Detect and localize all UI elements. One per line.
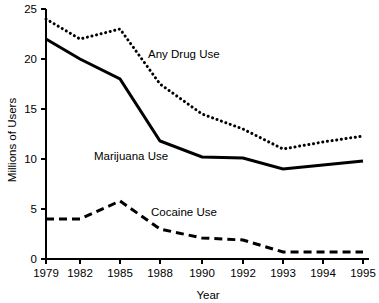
series-annotations: Any Drug Use Marijuana Use Cocaine Use xyxy=(94,48,220,218)
x-tick-label: 1995 xyxy=(350,267,376,279)
x-tick-label: 1979 xyxy=(33,267,59,279)
series-label-any-drug-use: Any Drug Use xyxy=(148,48,220,60)
y-axis-title: Millions of Users xyxy=(6,98,18,183)
x-tick-label: 1994 xyxy=(310,267,336,279)
y-tick-label: 10 xyxy=(24,153,37,165)
x-tick-label: 1993 xyxy=(270,267,296,279)
line-chart: 0510152025 19791982198519881990199219931… xyxy=(0,0,379,303)
y-tick-label: 5 xyxy=(31,203,37,215)
y-tick-label: 25 xyxy=(24,3,37,15)
x-axis-title: Year xyxy=(196,289,219,301)
x-tick-label: 1982 xyxy=(67,267,93,279)
series-label-cocaine-use: Cocaine Use xyxy=(151,206,217,218)
y-tick-label: 15 xyxy=(24,103,37,115)
x-tick-label: 1985 xyxy=(107,267,133,279)
series-any-drug-use xyxy=(46,19,363,149)
series-label-marijuana-use: Marijuana Use xyxy=(94,150,168,162)
x-axis-tick-labels: 197919821985198819901992199319941995 xyxy=(33,267,376,279)
x-tick-label: 1990 xyxy=(189,267,215,279)
x-tick-label: 1988 xyxy=(147,267,173,279)
y-tick-label: 0 xyxy=(31,253,37,265)
chart-container: 0510152025 19791982198519881990199219931… xyxy=(0,0,379,303)
y-axis-ticks xyxy=(41,9,46,259)
y-axis-tick-labels: 0510152025 xyxy=(24,3,37,265)
y-tick-label: 20 xyxy=(24,53,37,65)
x-tick-label: 1992 xyxy=(230,267,256,279)
x-axis-ticks xyxy=(46,259,363,264)
